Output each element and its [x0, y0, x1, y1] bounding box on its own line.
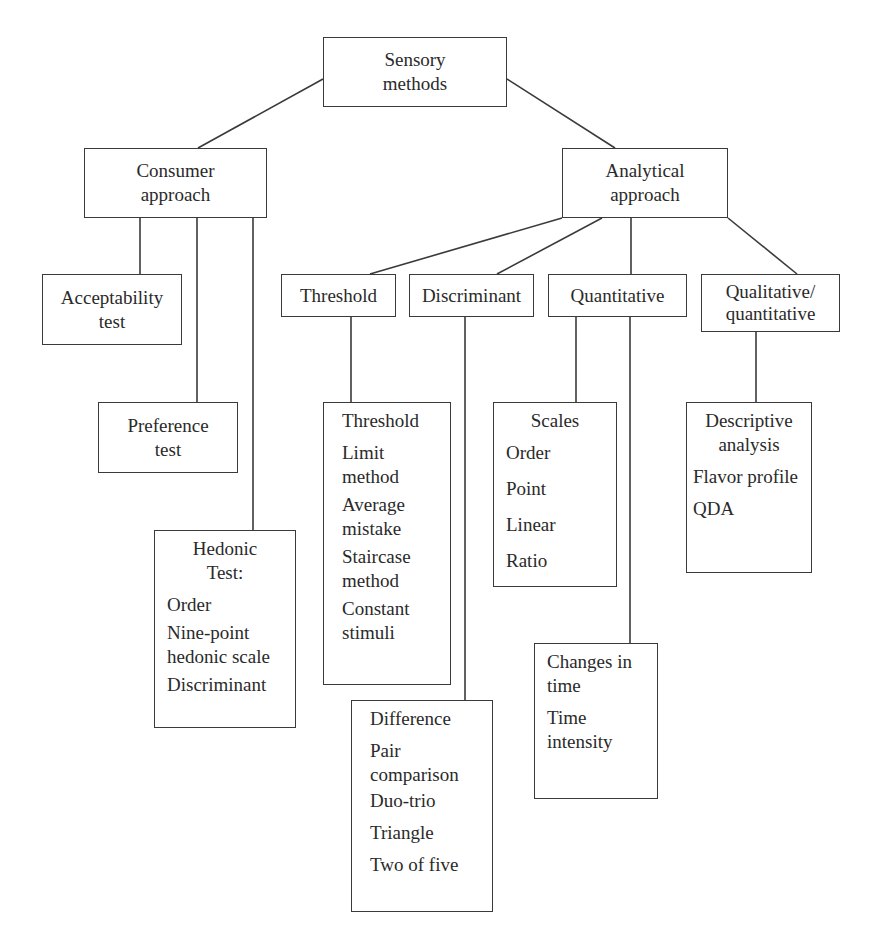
node-title: Changes in time: [535, 650, 657, 698]
node-acceptability-test: Acceptability test: [42, 274, 182, 345]
list-item: Discriminant: [167, 673, 295, 697]
node-hedonic-test: Hedonic Test: Order Nine-point hedonic s…: [154, 530, 296, 728]
difference-items: Pair comparison Duo-trio Triangle Two of…: [352, 739, 492, 877]
list-item: Limit method: [342, 441, 450, 489]
hedonic-items: Order Nine-point hedonic scale Discrimin…: [155, 593, 295, 697]
node-threshold: Threshold: [281, 274, 396, 317]
node-title: Hedonic Test:: [155, 537, 295, 585]
list-item: Flavor profile: [693, 465, 811, 489]
list-item: Order: [506, 441, 616, 465]
node-discriminant: Discriminant: [409, 274, 534, 317]
list-item: Order: [167, 593, 295, 617]
list-item: Linear: [506, 513, 616, 537]
list-item: Triangle: [370, 821, 492, 845]
node-label: Preference test: [127, 414, 208, 462]
node-label: Sensory methods: [383, 48, 447, 96]
node-title: Threshold: [324, 409, 450, 433]
list-item: Ratio: [506, 549, 616, 573]
node-title: Descriptive analysis: [687, 409, 811, 457]
node-qualitative-quantitative: Qualitative/ quantitative: [701, 274, 840, 332]
list-item: Average mistake: [342, 493, 450, 541]
node-label: Acceptability test: [61, 286, 163, 334]
node-label: Discriminant: [422, 284, 521, 308]
list-item: Duo-trio: [370, 789, 492, 813]
changes-items: Time intensity: [535, 706, 657, 754]
node-title: Scales: [494, 409, 616, 433]
descriptive-items: Flavor profile QDA: [687, 465, 811, 521]
list-item: Staircase method: [342, 545, 450, 593]
node-label: Qualitative/ quantitative: [726, 281, 816, 325]
list-item: Nine-point hedonic scale: [167, 621, 295, 669]
node-threshold-detail: Threshold Limit method Average mistake S…: [323, 402, 451, 685]
node-descriptive-analysis: Descriptive analysis Flavor profile QDA: [686, 402, 812, 573]
node-changes-in-time: Changes in time Time intensity: [534, 643, 658, 799]
node-label: Analytical approach: [605, 159, 684, 207]
list-item: Pair comparison: [370, 739, 492, 787]
node-sensory-methods: Sensory methods: [323, 37, 507, 107]
node-quantitative: Quantitative: [548, 274, 687, 317]
node-difference-detail: Difference Pair comparison Duo-trio Tria…: [351, 700, 493, 912]
node-analytical-approach: Analytical approach: [562, 148, 728, 218]
list-item: Point: [506, 477, 616, 501]
list-item: Time intensity: [547, 706, 657, 754]
node-label: Quantitative: [571, 284, 665, 308]
node-label: Consumer approach: [136, 159, 214, 207]
threshold-items: Limit method Average mistake Staircase m…: [324, 441, 450, 645]
node-label: Threshold: [300, 284, 377, 308]
list-item: Two of five: [370, 853, 492, 877]
node-preference-test: Preference test: [98, 402, 238, 473]
node-consumer-approach: Consumer approach: [84, 148, 267, 218]
node-scales: Scales Order Point Linear Ratio: [493, 402, 617, 587]
scales-items: Order Point Linear Ratio: [494, 441, 616, 573]
list-item: Constant stimuli: [342, 597, 450, 645]
node-title: Difference: [352, 707, 492, 731]
list-item: QDA: [693, 497, 811, 521]
